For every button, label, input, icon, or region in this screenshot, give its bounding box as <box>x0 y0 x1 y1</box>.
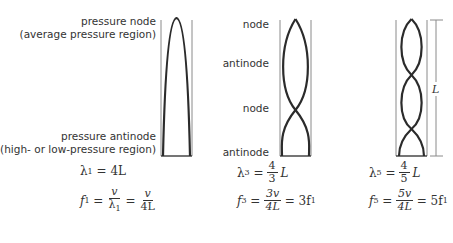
average-pressure-label: (average pressure region) <box>20 28 156 41</box>
length-label: L <box>432 83 439 96</box>
tube-3-fifth-harmonic <box>396 19 427 156</box>
tube-1-fundamental <box>161 18 192 156</box>
pressure-node-label: pressure node <box>20 15 156 28</box>
tube-2-third-harmonic <box>280 19 311 156</box>
tube1-bottom-label: pressure antinode (high- or low-pressure… <box>0 130 156 156</box>
pressure-antinode-label: pressure antinode <box>0 130 156 143</box>
tube2-frequency-eq: f3 = 3v4L = 3f1 <box>237 188 316 213</box>
tube2-label-antinode-mid: antinode <box>223 57 269 70</box>
tube3-frequency-eq: f5 = 5v4L = 5f1 <box>369 188 448 213</box>
high-low-pressure-label: (high- or low-pressure region) <box>0 143 156 156</box>
tube2-label-node-top: node <box>243 18 269 31</box>
tube1-top-label: pressure node (average pressure region) <box>20 15 156 41</box>
tube1-frequency-eq: f1 = vλ1= v4L <box>80 186 160 215</box>
tube1-wavelength-eq: λ1 = 4L <box>80 164 126 178</box>
tube2-wavelength-eq: λ3 = 43L <box>237 160 289 185</box>
tube2-label-antinode-bottom: antinode <box>223 146 269 159</box>
tube2-label-node-mid: node <box>243 102 269 115</box>
tube3-wavelength-eq: λ5 = 45L <box>369 160 421 185</box>
